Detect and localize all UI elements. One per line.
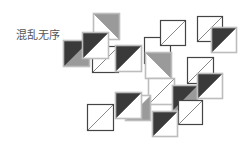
half-square-tile (115, 92, 142, 119)
half-square-tile (178, 100, 203, 125)
half-square-tile (82, 32, 109, 59)
half-square-tile (211, 27, 237, 53)
half-square-tile (152, 111, 178, 137)
half-square-tile (148, 78, 175, 105)
half-square-tile (145, 52, 172, 79)
half-square-tile (87, 104, 114, 131)
half-square-tile (160, 20, 186, 46)
tile-collage (0, 0, 249, 147)
half-square-tile (115, 45, 142, 72)
half-square-tile (197, 73, 223, 99)
